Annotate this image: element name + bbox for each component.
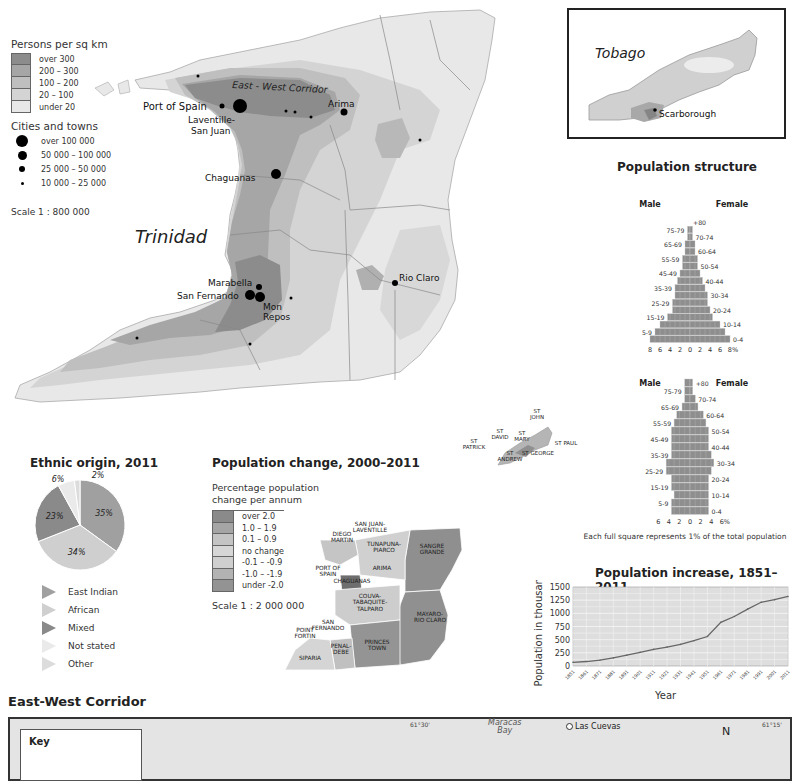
town-dot: [285, 110, 288, 113]
pyramid-age-label: 45-49: [650, 436, 668, 443]
pyramid-bar-male: [685, 395, 690, 402]
city-dot-port-of-spain[interactable]: [220, 104, 225, 109]
tobago-parishes-map: STJOHNSTDAVIDSTMARYST PAULSTPATRICKST GE…: [450, 405, 590, 485]
population-change-legend-item: 1.0 – 1.9: [212, 523, 284, 535]
pyramid-x-tick: 4: [708, 346, 712, 354]
city-size-label: 50 000 – 100 000: [41, 151, 111, 160]
density-legend-item: 20 – 100: [11, 89, 131, 101]
pyramid-age-label: 40-44: [706, 278, 724, 285]
city-dot-marabella[interactable]: [256, 284, 262, 290]
pie-value-label: 34%: [68, 548, 86, 557]
city-dot-arima[interactable]: [341, 109, 348, 116]
pyramid-x-tick: 2: [698, 346, 702, 354]
pyramid-age-label: 0-4: [712, 508, 722, 515]
city-label-repos: Repos: [263, 312, 291, 322]
pyramid-bar-female: [690, 419, 706, 426]
pyramid-bar-male: [688, 234, 691, 241]
town-dot: [294, 111, 297, 114]
city-label-laventille: Laventille-: [188, 115, 235, 125]
city-size-label: 25 000 – 50 000: [41, 165, 106, 174]
pyramid-age-label: 15-19: [650, 484, 668, 491]
population-change-legend-item: 0.1 – 0.9: [212, 534, 284, 546]
population-point: [572, 662, 574, 664]
population-change-swatch: [212, 511, 234, 523]
pyramid-bar-female: [690, 387, 693, 394]
population-change-label: -1.0 – -1.9: [242, 570, 282, 579]
y-tick-label: 0: [565, 662, 570, 671]
pie-legend-label: African: [68, 605, 99, 615]
male-label: Male: [639, 200, 661, 209]
city-label-san-fernando: San Fernando: [177, 291, 239, 301]
x-tick-label: 1971: [725, 669, 737, 681]
pie-legend-item: East Indian: [42, 583, 118, 601]
city-label-port-of-spain: Port of Spain: [143, 101, 207, 112]
pyramid-x-tick: 2: [678, 346, 682, 354]
town-dot: [310, 116, 313, 119]
scarborough-dot[interactable]: [653, 108, 657, 112]
pyramid-age-label: 65-69: [664, 241, 682, 248]
city-dot-mon-repos[interactable]: [255, 292, 265, 302]
pyramid-age-label: +80: [696, 380, 709, 387]
population-point: [666, 646, 668, 648]
city-size-legend-item: 25 000 – 50 000: [11, 162, 141, 176]
region-label: POINTFORTIN: [294, 627, 315, 639]
pyramid-bar-male: [674, 491, 690, 498]
pyramid-age-label: 40-44: [712, 444, 730, 451]
city-label-rio-claro: Rio Claro: [399, 273, 440, 283]
city-dot-san-fernando[interactable]: [245, 290, 255, 300]
pyramid-age-label: 35-39: [654, 285, 672, 292]
city-dot-chaguanas[interactable]: [271, 169, 281, 179]
city-dot-rio-claro[interactable]: [392, 280, 398, 286]
pie-value-label: 35%: [95, 509, 113, 518]
pyramid-age-label: +80: [693, 219, 706, 226]
population-change-swatch: [212, 569, 234, 581]
population-change-legend: over 2.01.0 – 1.90.1 – 0.9no change-0.1 …: [212, 510, 284, 592]
city-label-marabella: Marabella: [208, 278, 252, 288]
pyramid-bar-female: [690, 459, 714, 466]
regional-corporations-map: SAN JUAN-LAVENTILLEDIEGOMARTINTUNAPUNA-P…: [280, 520, 480, 670]
corridor-key-box: Key: [20, 729, 142, 781]
city-size-label: 10 000 – 25 000: [41, 179, 106, 188]
population-point: [626, 654, 628, 656]
pyramid-bar-female: [690, 248, 695, 255]
density-legend: Persons per sq km over 300200 – 300100 –…: [11, 38, 141, 113]
female-label: Female: [716, 379, 749, 388]
population-change-label: 1.0 – 1.9: [242, 524, 277, 533]
x-tick-label: 1911: [645, 669, 657, 681]
legend-triangle-icon: [42, 621, 56, 635]
pyramid-age-label: 10-14: [723, 321, 741, 328]
pyramid-bar-female: [690, 263, 698, 270]
density-swatch: [11, 65, 31, 77]
region-label: PORT OFSPAIN: [316, 565, 341, 577]
main-map-scale: Scale 1 : 800 000: [11, 207, 90, 217]
pyramid-x-tick: 6: [718, 346, 722, 354]
density-swatch: [11, 77, 31, 89]
pyramid-age-label: 55-59: [662, 256, 680, 263]
population-point: [747, 608, 749, 610]
pyramid-bar-male: [675, 292, 690, 299]
corridor-maracas-bay: MaracasBay: [488, 719, 521, 735]
pyramid-x-tick: 4: [709, 518, 713, 526]
population-change-label: over 2.0: [242, 512, 275, 521]
tobago-title: Tobago: [595, 45, 645, 61]
pyramid-bar-male: [678, 277, 691, 284]
city-dot-laventille[interactable]: [233, 99, 247, 113]
tobago-low-density: [684, 57, 734, 73]
x-tick-label: 1921: [658, 669, 670, 681]
x-tick-label: 1861: [578, 669, 590, 681]
y-tick-label: 500: [555, 636, 570, 645]
pyramid-x-tick: 0: [688, 518, 692, 526]
corridor-title: East-West Corridor: [8, 694, 146, 709]
pyramid-age-label: 30-34: [711, 292, 729, 299]
parish-label: STJOHN: [529, 408, 544, 421]
density-legend-label: over 300: [39, 55, 75, 64]
pyramid-bar-female: [690, 241, 695, 248]
pyramid-bar-male: [668, 314, 691, 321]
tobago-map: Scarborough Tobago: [569, 10, 784, 137]
city-label-san-juan: San Juan: [191, 126, 230, 136]
city-size-legend-item: 50 000 – 100 000: [11, 148, 141, 162]
pie-value-label: 23%: [46, 512, 64, 521]
city-label-mon: Mon: [263, 302, 282, 312]
pyramid-bar-male: [677, 411, 690, 418]
pyramid-note: Each full square represents 1% of the to…: [580, 532, 790, 541]
